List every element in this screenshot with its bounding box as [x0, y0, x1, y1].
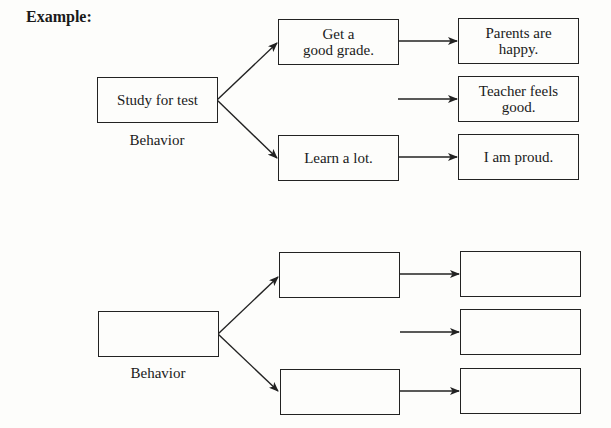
blank-outcome-top-box[interactable]: [279, 252, 400, 298]
blank-outcome-bottom-box[interactable]: [280, 369, 400, 415]
blank-behavior-box[interactable]: [98, 311, 219, 357]
example-consequence-teacher-feels-good: Teacher feels good.: [458, 76, 579, 122]
blank-consequence-box-3[interactable]: [460, 368, 581, 414]
example-consequence-parents-happy: Parents are happy.: [458, 18, 579, 64]
blank-consequence-box-1[interactable]: [460, 251, 581, 297]
example-behavior-label: Behavior: [97, 132, 217, 149]
example-consequence-i-am-proud: I am proud.: [458, 134, 579, 180]
example-behavior-box: Study for test: [97, 77, 218, 123]
blank-behavior-label: Behavior: [98, 365, 218, 382]
blank-consequence-box-2[interactable]: [460, 309, 581, 355]
example-outcome-good-grade: Get a good grade.: [278, 19, 399, 65]
example-outcome-learn-a-lot: Learn a lot.: [278, 135, 399, 181]
